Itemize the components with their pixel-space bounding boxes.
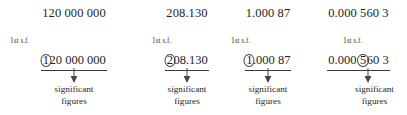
- circled-digit-2: 2: [166, 53, 173, 68]
- sig-line-4b: figures: [326, 95, 407, 107]
- significant-figures-label-4: significant figures: [326, 83, 407, 107]
- top-number-2: 208.130: [148, 6, 226, 21]
- circled-digit-4: 5: [360, 53, 367, 68]
- significant-figures-label-1: significant figures: [0, 83, 148, 107]
- sig-line-3a: significant: [226, 83, 310, 95]
- sf-column-4: 0.000 560 3 1st s.f. 0.000 560 3 signifi…: [310, 0, 407, 115]
- significant-figures-diagram: 120 000 000 1st s.f. 120 000 000 signifi…: [0, 0, 407, 115]
- underlined-number-3: 1.000 87: [245, 53, 292, 71]
- first-sf-label-3: 1st s.f.: [231, 37, 250, 45]
- circled-digit-3: 1: [246, 53, 253, 68]
- marked-number-row-4: 0.000 560 3: [310, 50, 407, 71]
- remaining-digits-2: 08.130: [173, 53, 207, 67]
- sf-column-2: 208.130 1st s.f. 208.130 significant fig…: [148, 0, 226, 115]
- top-number-4: 0.000 560 3: [310, 6, 407, 21]
- circled-digit-1: 1: [42, 53, 49, 68]
- top-number-1: 120 000 000: [0, 6, 148, 21]
- first-sf-label-4: 1st s.f.: [343, 37, 362, 45]
- sig-line-2b: figures: [148, 95, 226, 107]
- leading-zeros-4: 0.000: [328, 53, 359, 67]
- marked-number-row-2: 208.130: [148, 50, 226, 71]
- remaining-digits-4: 60 3: [367, 53, 389, 67]
- underlined-number-4: 0.000 560 3: [327, 53, 389, 71]
- significant-figures-label-3: significant figures: [226, 83, 310, 107]
- significant-figures-label-2: significant figures: [148, 83, 226, 107]
- marked-number-row-3: 1.000 87: [226, 50, 310, 71]
- sig-line-1b: figures: [0, 95, 148, 107]
- underlined-number-2: 208.130: [165, 53, 209, 71]
- first-sf-label-2: 1st s.f.: [152, 37, 171, 45]
- sig-line-1a: significant: [0, 83, 148, 95]
- sig-line-3b: figures: [226, 95, 310, 107]
- top-number-3: 1.000 87: [226, 6, 310, 21]
- sf-column-3: 1.000 87 1st s.f. 1.000 87 significant f…: [226, 0, 310, 115]
- underlined-number-1: 120 000 000: [41, 53, 107, 71]
- sf-column-1: 120 000 000 1st s.f. 120 000 000 signifi…: [0, 0, 148, 115]
- remaining-digits-3: .000 87: [253, 53, 291, 67]
- marked-number-row-1: 120 000 000: [0, 50, 148, 71]
- sig-line-2a: significant: [148, 83, 226, 95]
- first-sf-label-1: 1st s.f.: [10, 37, 29, 45]
- sig-line-4a: significant: [326, 83, 407, 95]
- remaining-digits-1: 20 000 000: [50, 53, 106, 67]
